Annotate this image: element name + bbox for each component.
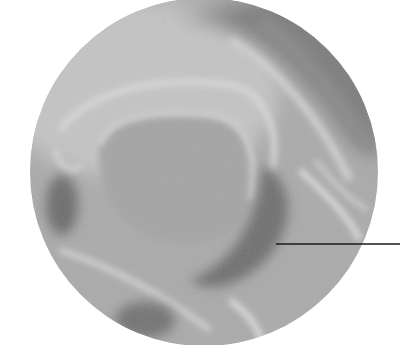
xray-circle [0, 0, 400, 345]
xray-detail-figure [0, 0, 400, 345]
